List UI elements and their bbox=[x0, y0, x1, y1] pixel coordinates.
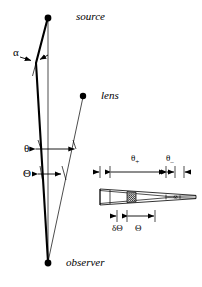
inset-theta-plus-sub: + bbox=[135, 158, 139, 166]
inset-theta-minus-label: θ– bbox=[166, 154, 174, 166]
inset-theta-upper-label: Θ bbox=[135, 224, 142, 233]
source-point bbox=[45, 15, 52, 22]
inset-theta-minus-sub: – bbox=[170, 158, 174, 166]
theta-upper-tick-right bbox=[62, 166, 66, 180]
alpha-arrow-right bbox=[40, 55, 48, 60]
theta-lower-label: θ bbox=[24, 143, 29, 154]
theta-upper-label: Θ bbox=[23, 168, 31, 179]
observer-label: observer bbox=[66, 257, 105, 268]
alpha-label: α bbox=[13, 47, 19, 58]
lens-label: lens bbox=[101, 90, 119, 101]
inset-primary-image-block bbox=[127, 192, 136, 203]
lensing-diagram-figure: source lens observer α θ Θ θ+ θ– δΘ Θ bbox=[0, 0, 202, 287]
observer-point bbox=[45, 260, 52, 267]
inset-secondary-image-block bbox=[174, 196, 177, 198]
lens-point bbox=[80, 93, 86, 99]
inset-theta-plus-label: θ+ bbox=[131, 154, 139, 166]
source-label: source bbox=[76, 11, 105, 22]
theta-tick-right bbox=[73, 140, 76, 149]
alpha-arrow-left bbox=[20, 57, 31, 61]
inset-delta-theta-label: δΘ bbox=[112, 224, 123, 233]
diagram-vector-canvas bbox=[0, 0, 202, 287]
